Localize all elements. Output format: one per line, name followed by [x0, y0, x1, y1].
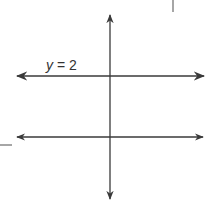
coordinate-graph: y = 2	[0, 0, 218, 214]
line-annotation: y = 2	[45, 57, 77, 73]
